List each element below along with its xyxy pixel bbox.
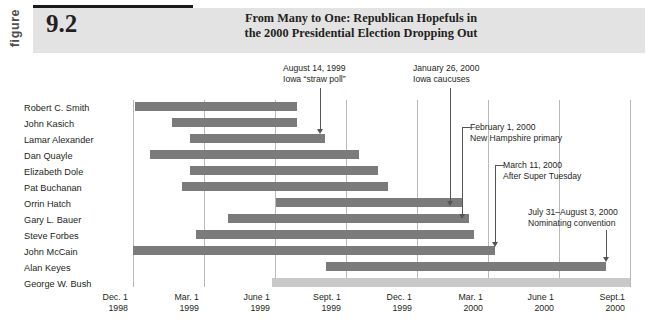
annotation-nominating-convention-line-1: July 31–August 3, 2000 <box>528 207 618 217</box>
xaxis-label-sept-1-1999-month: Sept. 1 <box>313 292 341 302</box>
bar-george-w-bush <box>272 278 630 287</box>
bar-orrin-hatch <box>276 198 462 207</box>
xaxis-label-dec-1-1998: Dec. 1 1998 <box>63 292 128 313</box>
candidate-label-lamar-alexander: Lamar Alexander <box>24 136 144 145</box>
arrowhead-after-super-tuesday <box>492 242 498 247</box>
xaxis-label-june-1-1999: June 1 1999 <box>205 292 270 313</box>
leader-line-after-super-tuesday <box>495 165 496 243</box>
annotation-iowa-straw-poll: August 14, 1999 Iowa “straw poll” <box>283 63 346 84</box>
xaxis-label-mar-1-2000-year: 2000 <box>463 303 483 313</box>
xaxis-label-dec-1-1999-month: Dec. 1 <box>387 292 412 302</box>
xaxis-label-mar-1-1999: Mar. 1 1999 <box>134 292 199 313</box>
leader-line-nominating-convention <box>606 230 607 258</box>
leader-line-iowa-caucuses <box>450 88 451 202</box>
candidate-label-gary-l-bauer: Gary L. Bauer <box>24 216 144 225</box>
arrowhead-iowa-caucuses <box>447 201 453 206</box>
gridline-june-1-1999 <box>275 100 276 287</box>
bar-gary-l-bauer <box>228 214 469 223</box>
xaxis-label-dec-1-1999: Dec. 1 1999 <box>347 292 412 313</box>
bar-alan-keyes <box>326 262 606 271</box>
candidate-label-robert-c-smith: Robert C. Smith <box>24 104 144 113</box>
xaxis-label-june-1-2000: June 1 2000 <box>489 292 554 313</box>
annotation-iowa-caucuses-line-1: January 26, 2000 <box>413 63 479 73</box>
annotation-after-super-tuesday-line-2: After Super Tuesday <box>503 171 581 181</box>
annotation-nominating-convention: July 31–August 3, 2000 Nominating conven… <box>528 207 618 228</box>
candidate-label-pat-buchanan: Pat Buchanan <box>24 184 144 193</box>
bar-elizabeth-dole <box>190 166 378 175</box>
annotation-iowa-straw-poll-line-1: August 14, 1999 <box>283 63 346 73</box>
xaxis-label-june-1-1999-month: June 1 <box>244 292 270 302</box>
leader-line-iowa-straw-poll <box>320 88 321 130</box>
xaxis-label-mar-1-1999-month: Mar. 1 <box>175 292 199 302</box>
gridline-sept-1-1999 <box>346 100 347 287</box>
candidate-label-elizabeth-dole: Elizabeth Dole <box>24 168 144 177</box>
chart-plot-area: Robert C. Smith John Kasich Lamar Alexan… <box>0 0 659 328</box>
bar-pat-buchanan <box>182 182 388 191</box>
candidate-label-john-kasich: John Kasich <box>24 120 144 129</box>
bar-lamar-alexander <box>190 134 325 143</box>
xaxis-label-sept-1-2000: Sept.1 2000 <box>560 292 625 313</box>
annotation-new-hampshire-primary-line-2: New Hampshire primary <box>470 133 562 143</box>
gridline-dec-1-1999 <box>417 100 418 287</box>
xaxis-label-sept-1-1999: Sept. 1 1999 <box>276 292 341 313</box>
gridline-sept-1-2000 <box>630 100 631 287</box>
arrowhead-iowa-straw-poll <box>317 129 323 134</box>
annotation-iowa-caucuses: January 26, 2000 Iowa caucuses <box>413 63 479 84</box>
xaxis-label-sept-1-2000-year: 2000 <box>605 303 625 313</box>
annotation-after-super-tuesday: March 11, 2000 After Super Tuesday <box>503 160 581 181</box>
candidate-label-john-mccain: John McCain <box>24 248 144 257</box>
arrowhead-nominating-convention <box>603 257 609 262</box>
xaxis-label-june-1-2000-month: June 1 <box>528 292 554 302</box>
xaxis-label-mar-1-2000: Mar. 1 2000 <box>418 292 483 313</box>
gridline-mar-1-1999 <box>204 100 205 287</box>
annotation-iowa-straw-poll-line-2: Iowa “straw poll” <box>283 74 346 84</box>
annotation-new-hampshire-primary: February 1, 2000 New Hampshire primary <box>470 122 562 143</box>
candidate-label-steve-forbes: Steve Forbes <box>24 232 144 241</box>
annotation-iowa-caucuses-line-2: Iowa caucuses <box>413 74 470 84</box>
leader-elbow-after-super-tuesday <box>495 165 504 166</box>
candidate-label-alan-keyes: Alan Keyes <box>24 264 144 273</box>
bar-dan-quayle <box>150 150 359 159</box>
bar-steve-forbes <box>196 230 474 239</box>
figure-container: figure 9.2 From Many to One: Republican … <box>0 0 659 328</box>
xaxis-label-june-1-1999-year: 1999 <box>250 303 270 313</box>
bar-robert-c-smith <box>135 102 297 111</box>
xaxis-label-mar-1-2000-month: Mar. 1 <box>459 292 483 302</box>
xaxis-label-dec-1-1998-month: Dec. 1 <box>103 292 128 302</box>
xaxis-label-june-1-2000-year: 2000 <box>534 303 554 313</box>
bar-john-kasich <box>172 118 297 127</box>
annotation-nominating-convention-line-2: Nominating convention <box>528 218 615 228</box>
annotation-new-hampshire-primary-line-1: February 1, 2000 <box>470 122 535 132</box>
xaxis-label-sept-1-1999-year: 1999 <box>321 303 341 313</box>
xaxis-label-sept-1-2000-month: Sept.1 <box>600 292 625 302</box>
candidate-label-orrin-hatch: Orrin Hatch <box>24 200 144 209</box>
xaxis-label-dec-1-1998-year: 1998 <box>108 303 128 313</box>
candidate-name-column: Robert C. Smith John Kasich Lamar Alexan… <box>24 0 144 328</box>
arrowhead-new-hampshire-primary <box>459 214 465 219</box>
leader-line-new-hampshire-primary <box>462 127 463 215</box>
candidate-label-george-w-bush: George W. Bush <box>24 280 144 289</box>
xaxis-label-mar-1-1999-year: 1999 <box>179 303 199 313</box>
leader-elbow-new-hampshire-primary <box>462 127 471 128</box>
annotation-after-super-tuesday-line-1: March 11, 2000 <box>503 160 562 170</box>
candidate-label-dan-quayle: Dan Quayle <box>24 152 144 161</box>
xaxis-label-dec-1-1999-year: 1999 <box>392 303 412 313</box>
bar-john-mccain <box>133 246 495 255</box>
